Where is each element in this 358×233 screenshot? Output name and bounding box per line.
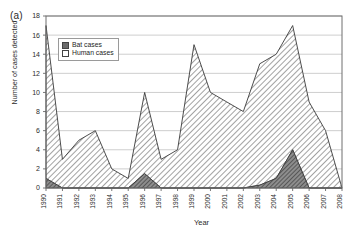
x-tick-label: 1997 — [155, 194, 162, 209]
legend-item-bat-cases: Bat cases — [62, 41, 114, 49]
legend-item-human-cases: Human cases — [62, 49, 114, 57]
x-tick-label: 1996 — [139, 194, 146, 209]
x-tick-label: 1994 — [106, 194, 113, 209]
legend-label-bat-cases: Bat cases — [72, 41, 102, 49]
legend-swatch-bat-icon — [62, 42, 69, 49]
y-tick-label: 14 — [32, 51, 40, 58]
x-tick-label: 1999 — [188, 194, 195, 209]
x-tick-label: 1990 — [40, 194, 47, 209]
x-tick-label: 1991 — [56, 194, 63, 209]
x-tick-label: 2005 — [287, 194, 294, 209]
y-tick-label: 6 — [36, 127, 40, 134]
y-tick-label: 0 — [36, 184, 40, 191]
y-tick-label: 18 — [32, 12, 40, 19]
y-tick-label: 4 — [36, 146, 40, 153]
x-tick-label: 1992 — [73, 194, 80, 209]
y-tick-label: 16 — [32, 32, 40, 39]
legend-label-human-cases: Human cases — [72, 49, 114, 57]
y-tick-label: 12 — [32, 70, 40, 77]
y-tick-label: 10 — [32, 89, 40, 96]
figure-panel-a: (a) Number of cases detected Year 024681… — [0, 0, 358, 233]
x-tick-label: 2001 — [221, 194, 228, 209]
x-tick-label: 2006 — [303, 194, 310, 209]
chart-legend: Bat cases Human cases — [58, 38, 119, 61]
x-tick-label: 2000 — [204, 194, 211, 209]
y-tick-label: 8 — [36, 108, 40, 115]
y-axis-title: Number of cases detected — [10, 0, 19, 129]
legend-swatch-human-icon — [62, 50, 69, 57]
x-tick-label: 2002 — [237, 194, 244, 209]
y-axis: 024681012141618 — [32, 12, 46, 191]
x-tick-label: 1993 — [89, 194, 96, 209]
x-tick-label: 1995 — [122, 194, 129, 209]
x-tick-label: 2008 — [336, 194, 343, 209]
x-tick-label: 1998 — [172, 194, 179, 209]
x-tick-label: 2003 — [254, 194, 261, 209]
x-tick-label: 2004 — [270, 194, 277, 209]
x-tick-label: 2007 — [320, 194, 327, 209]
x-axis: 1990199119921993199419951996199719981999… — [40, 188, 343, 209]
x-axis-title: Year — [45, 218, 358, 227]
y-tick-label: 2 — [36, 165, 40, 172]
